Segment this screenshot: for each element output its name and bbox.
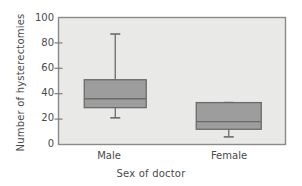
box-rect (196, 103, 261, 130)
plot-area (0, 0, 302, 186)
box-plot-figure: Number of hysterectomies 100 80 60 40 20… (0, 0, 302, 186)
box-rect (84, 80, 146, 108)
